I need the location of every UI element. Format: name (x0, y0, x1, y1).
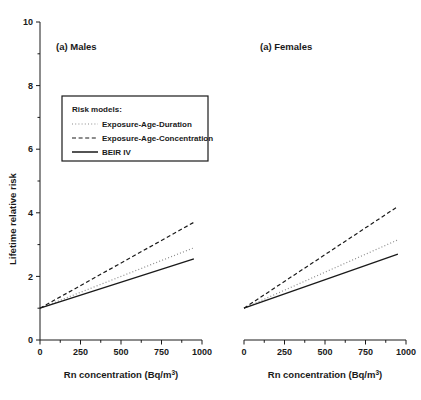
x-tick-label: 0 (241, 347, 246, 357)
x-tick-label: 1000 (396, 347, 416, 357)
x-tick-label: 0 (37, 347, 42, 357)
chart-legend: Risk models:Exposure-Age-DurationExposur… (62, 96, 213, 161)
x-tick-label: 500 (317, 347, 332, 357)
panel-title-females: (a) Females (260, 41, 312, 52)
panel-title-males: (a) Males (56, 41, 97, 52)
x-tick-label: 750 (358, 347, 373, 357)
series-line-exposure-age-concentration (244, 206, 398, 308)
y-tick-label: 2 (28, 272, 33, 282)
x-axis-title-males: Rn concentration (Bq/m3) (64, 369, 178, 381)
series-line-exposure-age-duration (244, 240, 398, 308)
legend-label-exposure-age-concentration: Exposure-Age-Concentration (102, 134, 213, 143)
y-tick-label: 10 (23, 17, 33, 27)
y-tick-label: 0 (28, 335, 33, 345)
y-tick-label: 6 (28, 144, 33, 154)
x-tick-label: 500 (113, 347, 128, 357)
series-line-exposure-age-concentration (40, 222, 194, 308)
x-tick-label: 750 (154, 347, 169, 357)
figure-container: Lifetime relative risk (a) Males02468100… (0, 0, 421, 400)
panel-males: (a) Males024681002505007501000Rn concent… (23, 17, 212, 380)
series-line-beir-iv (40, 259, 194, 308)
x-tick-label: 250 (277, 347, 292, 357)
x-tick-label: 250 (73, 347, 88, 357)
y-tick-label: 4 (28, 208, 33, 218)
series-line-exposure-age-duration (40, 248, 194, 308)
x-tick-label: 1000 (192, 347, 212, 357)
panel-females: (a) Females02505007501000Rn concentratio… (241, 41, 416, 380)
series-line-beir-iv (244, 254, 398, 308)
y-tick-label: 8 (28, 81, 33, 91)
x-axis-title-females: Rn concentration (Bq/m3) (268, 369, 382, 381)
risk-model-chart: Lifetime relative risk (a) Males02468100… (0, 0, 421, 400)
legend-label-exposure-age-duration: Exposure-Age-Duration (102, 120, 192, 129)
y-axis-title: Lifetime relative risk (7, 172, 18, 265)
legend-title: Risk models: (72, 105, 122, 114)
legend-label-beir-iv: BEIR IV (102, 148, 132, 157)
